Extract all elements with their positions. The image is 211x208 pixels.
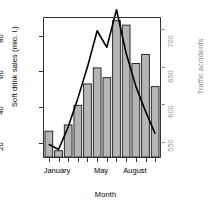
bar-april (74, 105, 82, 157)
bar-january (45, 131, 53, 157)
x-axis-ticks (50, 158, 156, 163)
bar-march (64, 125, 72, 157)
bar-august (113, 21, 121, 157)
bar-february (55, 151, 63, 157)
bar-december (151, 87, 159, 157)
y-left-ticks (39, 37, 44, 144)
chart-container: Soft drink sales (mio. l.) Traffic accid… (0, 0, 211, 208)
bar-june (93, 68, 101, 157)
bar-september (122, 25, 130, 157)
bar-may (84, 84, 92, 157)
bars-group (45, 21, 159, 157)
bar-july (103, 78, 111, 157)
y-right-ticks (161, 30, 166, 143)
plot-area (0, 0, 211, 208)
